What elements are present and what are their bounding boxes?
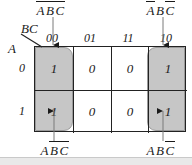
cell-value: 1 xyxy=(51,61,58,77)
cell-r0-c11: 0 xyxy=(111,47,149,90)
column-header-10: 10 xyxy=(148,31,184,46)
cell-r1-c01: 0 xyxy=(73,90,111,133)
cell-value: 0 xyxy=(89,104,96,120)
cell-r1-c11: 0 xyxy=(111,90,149,133)
term-tl-letter-b: B xyxy=(45,3,54,19)
kmap-grid: 1 0 0 1 1 0 0 1 xyxy=(34,46,186,132)
cell-value: 1 xyxy=(51,104,58,120)
row-header-0: 0 xyxy=(14,61,30,76)
column-header-01: 01 xyxy=(72,31,108,46)
cell-r0-c01: 0 xyxy=(73,47,111,90)
term-label-top-right: ABC xyxy=(146,3,175,19)
cell-r1-c10: 1 xyxy=(149,90,187,133)
cell-r1-c00: 1 xyxy=(35,90,73,133)
cell-value: 1 xyxy=(165,61,172,77)
cell-value: 0 xyxy=(127,104,134,120)
column-header-00: 00 xyxy=(34,31,70,46)
footer-band xyxy=(0,158,192,165)
axis-label-a: A xyxy=(8,41,16,57)
karnaugh-map-diagram: ABC ABC ABC ABC BC A 00 01 11 10 0 1 1 0… xyxy=(0,0,192,165)
term-label-top-left: ABC xyxy=(36,3,65,19)
cell-r0-c00: 1 xyxy=(35,47,73,90)
column-header-11: 11 xyxy=(110,31,146,46)
cell-value: 0 xyxy=(127,61,134,77)
cell-r0-c10: 1 xyxy=(149,47,187,90)
row-header-1: 1 xyxy=(14,104,30,119)
term-tr-letter-b: B xyxy=(155,3,164,19)
term-tl-letter-c: C xyxy=(55,3,65,19)
cell-value: 0 xyxy=(89,61,96,77)
term-tr-letter-c: C xyxy=(165,3,175,19)
term-tr-letter-a: A xyxy=(146,3,155,19)
term-tl-letter-a: A xyxy=(36,3,45,19)
cell-value: 1 xyxy=(165,104,172,120)
